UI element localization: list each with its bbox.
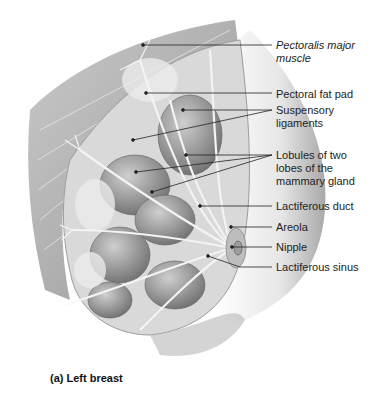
label-lactiferous-sinus: Lactiferous sinus [276,261,359,274]
breast-anatomy-figure: Pectoralis major muscle Pectoral fat pad… [0,0,376,413]
label-lobules: Lobules of two lobes of the mammary glan… [276,149,355,188]
nipple [234,241,242,255]
label-suspensory-ligaments: Suspensory ligaments [276,104,334,130]
label-nipple: Nipple [276,241,307,254]
label-pectoral-fat-pad: Pectoral fat pad [276,88,353,101]
label-lactiferous-duct: Lactiferous duct [276,200,354,213]
figure-caption: (a) Left breast [50,372,123,384]
label-areola: Areola [276,221,308,234]
label-pectoralis-major-muscle: Pectoralis major muscle [276,39,355,65]
